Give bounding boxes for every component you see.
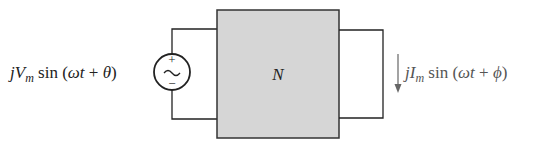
source-label: jVm sin (ωt + θ) [8,63,117,85]
minus-sign: − [168,76,175,91]
current-arrow-icon [395,54,402,93]
current-label: jIm sin (ωt + ϕ) [403,63,507,85]
output-loop-wires [339,30,383,118]
network-label: N [271,65,285,84]
ac-voltage-source: + − [154,52,190,91]
plus-sign: + [168,52,175,67]
circuit-diagram: + − N jVm sin (ωt + θ) jIm sin (ωt + ϕ) [0,0,547,142]
